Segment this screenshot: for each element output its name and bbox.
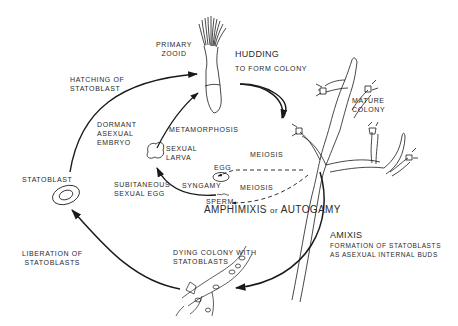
sexual-larva-label: SEXUAL LARVA <box>166 144 197 162</box>
life-cycle-diagram: PRIMARY ZOOID HUDDING TO FORM COLONY MAT… <box>0 0 458 326</box>
liberation-label: LIBERATION OF STATOBLASTS <box>22 249 83 267</box>
meiosis-upper-label: MEIOSIS <box>250 150 283 159</box>
subitaneous-egg-label: SUBITANEOUS SEXUAL EGG <box>114 180 170 198</box>
mature-colony-label: MATURE COLONY <box>352 96 385 114</box>
amixis-description: FORMATION OF STATOBLASTS AS ASEXUAL INTE… <box>330 241 441 259</box>
primary-zooid-drawing <box>199 16 226 113</box>
meiosis-lower-label: MEIOSIS <box>240 183 273 192</box>
amphimixis-label: AMPHIMIXIS or AUTOGAMY <box>204 204 341 217</box>
budding-subtitle: TO FORM COLONY <box>235 64 307 73</box>
primary-zooid-label: PRIMARY ZOOID <box>156 40 192 58</box>
metamorphosis-arrow <box>157 93 198 148</box>
sexual-larva-drawing <box>147 142 164 158</box>
budding-title: HUDDING <box>235 49 279 60</box>
hatching-label: HATCHING OF STATOBLAST <box>70 75 124 93</box>
dormant-embryo-label: DORMANT ASEXUAL EMBRYO <box>97 120 137 147</box>
sperm-drawing <box>217 194 229 195</box>
statoblast-label: STATOBLAST <box>22 175 72 184</box>
dying-colony-label: DYING COLONY WITH STATOBLASTS <box>173 248 257 266</box>
budding-arrow <box>240 84 287 118</box>
egg-label: EGG <box>214 163 231 172</box>
statoblast-drawing <box>50 182 82 208</box>
mature-colony-drawing <box>292 58 410 302</box>
metamorphosis-label: METAMORPHOSIS <box>169 125 239 134</box>
syngamy-label: SYNGAMY <box>182 181 221 190</box>
liberation-arrow <box>72 210 180 289</box>
amixis-title: AMIXIS <box>330 230 362 241</box>
